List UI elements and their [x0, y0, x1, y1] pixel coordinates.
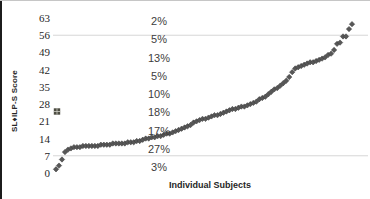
band-percent-label: 5%: [151, 70, 167, 82]
scatter-points: [53, 21, 354, 172]
band-percent-label: 5%: [151, 33, 167, 45]
band-percent-label: 27%: [148, 143, 170, 155]
y-tick-label-14: 14: [39, 133, 51, 145]
data-point-square: [54, 108, 60, 114]
y-tick-label-0: 0: [45, 167, 51, 179]
y-axis-title: SL♦ILP-S Score: [10, 46, 22, 156]
y-tick-label-56: 56: [39, 29, 51, 41]
data-point-diamond: [346, 26, 351, 31]
gridlines: [53, 35, 368, 156]
y-tick-label-42: 42: [39, 64, 50, 76]
data-point-diamond: [349, 21, 354, 26]
band-percent-label: 3%: [151, 161, 167, 173]
band-percent-labels: 2%5%13%5%10%18%17%27%3%: [148, 15, 170, 173]
band-percent-label: 13%: [148, 52, 170, 64]
y-tick-label-28: 28: [39, 98, 51, 110]
band-percent-label: 10%: [148, 88, 170, 100]
chart-figure: 635649423528211470 2%5%13%5%10%18%17%27%…: [0, 0, 370, 199]
data-point-diamond: [59, 157, 64, 162]
y-tick-label-49: 49: [39, 46, 51, 58]
band-percent-label: 2%: [151, 15, 167, 27]
y-tick-label-63: 63: [39, 12, 51, 24]
scatter-chart: 635649423528211470 2%5%13%5%10%18%17%27%…: [0, 0, 370, 199]
x-axis-title: Individual Subjects: [110, 180, 310, 190]
band-percent-label: 18%: [148, 106, 170, 118]
y-axis-tick-labels: 635649423528211470: [39, 12, 51, 179]
y-tick-label-7: 7: [45, 150, 51, 162]
y-tick-label-35: 35: [39, 81, 51, 93]
band-percent-label: 17%: [148, 125, 170, 137]
y-tick-label-21: 21: [39, 115, 50, 127]
